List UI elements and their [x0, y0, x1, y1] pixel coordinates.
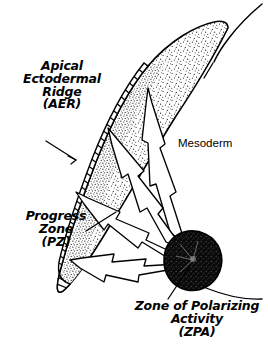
limb-bud-diagram: Apical Ectodermal Ridge (AER) Progress Z… — [0, 0, 268, 347]
label-apical-ectodermal-ridge: Apical Ectodermal Ridge (AER) — [4, 60, 120, 111]
label-progress-zone: Progress Zone (PZ) — [2, 210, 110, 248]
zpa-blob — [164, 231, 222, 290]
arrow-posterior — [70, 254, 178, 282]
label-zone-of-polarizing-activity: Zone of Polarizing Activity (ZPA) — [128, 300, 266, 338]
label-mesoderm: Mesoderm — [178, 138, 258, 150]
limb-bud-illustration — [0, 0, 268, 347]
